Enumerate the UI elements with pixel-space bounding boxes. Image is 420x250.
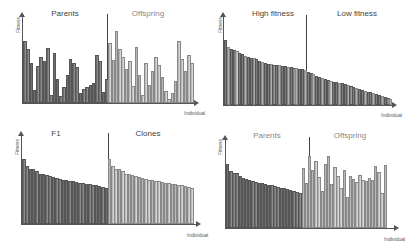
y-axis-arrow-icon xyxy=(222,135,228,140)
group-title-offspring: Offspring xyxy=(334,131,366,140)
x-axis xyxy=(225,228,395,229)
panel-parents-offspring-sorted: Fitness Individual Parents Offspring xyxy=(0,0,420,250)
x-axis-arrow-icon xyxy=(394,225,399,231)
group-title-parents: Parents xyxy=(253,131,281,140)
bar xyxy=(384,165,387,228)
x-axis-label: Individual xyxy=(384,236,405,242)
y-axis-label: Fitness xyxy=(217,139,223,155)
